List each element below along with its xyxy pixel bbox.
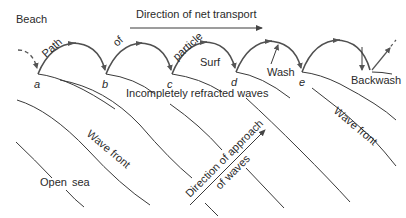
outgoing-arrow bbox=[372, 48, 390, 70]
net-transport-label: Direction of net transport bbox=[136, 8, 256, 20]
sea-label: sea bbox=[72, 176, 91, 188]
incompletely-refracted-label: Incompletely refracted waves bbox=[126, 87, 269, 99]
arc-b-up bbox=[106, 43, 142, 74]
backwash-label: Backwash bbox=[351, 74, 401, 86]
wash-arrow bbox=[271, 45, 278, 64]
point-b: b bbox=[102, 78, 108, 90]
longshore-drift-diagram: Beach Direction of net transport Path of… bbox=[0, 0, 406, 218]
wave-front-left-label: Wave front bbox=[85, 127, 133, 170]
wave-front-short-2 bbox=[246, 168, 284, 208]
wave-front-short-1 bbox=[205, 203, 218, 216]
beach-label: Beach bbox=[16, 13, 47, 25]
arc-b-c bbox=[137, 43, 171, 70]
wave-front-right-label: Wave front bbox=[332, 104, 380, 147]
point-a: a bbox=[34, 78, 40, 90]
wash-label: Wash bbox=[267, 66, 295, 78]
surf-label: Surf bbox=[200, 56, 221, 68]
wave-front-open-1 bbox=[16, 142, 52, 178]
path-label: Path bbox=[39, 35, 64, 59]
arc-e-up bbox=[302, 40, 340, 72]
wave-front-open-2 bbox=[66, 190, 84, 207]
open-label: Open bbox=[40, 176, 67, 188]
of-label: of bbox=[110, 33, 126, 49]
arc-a-b bbox=[70, 43, 105, 70]
wave-front-3 bbox=[170, 104, 222, 150]
incoming-dashed-path bbox=[18, 50, 37, 68]
point-e: e bbox=[299, 76, 305, 88]
outgoing-dashed bbox=[387, 40, 396, 51]
arc-d-e bbox=[267, 41, 301, 68]
arc-e-end bbox=[335, 40, 370, 70]
